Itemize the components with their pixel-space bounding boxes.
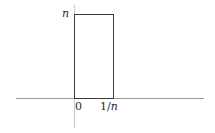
rectangle-pulse-diagram: n 0 1/n <box>0 0 215 133</box>
origin-label: 0 <box>75 101 82 112</box>
height-label: n <box>62 8 69 19</box>
width-label: 1/n <box>100 101 118 112</box>
width-label-numerator: 1/ <box>100 100 111 113</box>
pulse-rectangle <box>74 14 114 99</box>
width-label-variable: n <box>111 100 118 113</box>
